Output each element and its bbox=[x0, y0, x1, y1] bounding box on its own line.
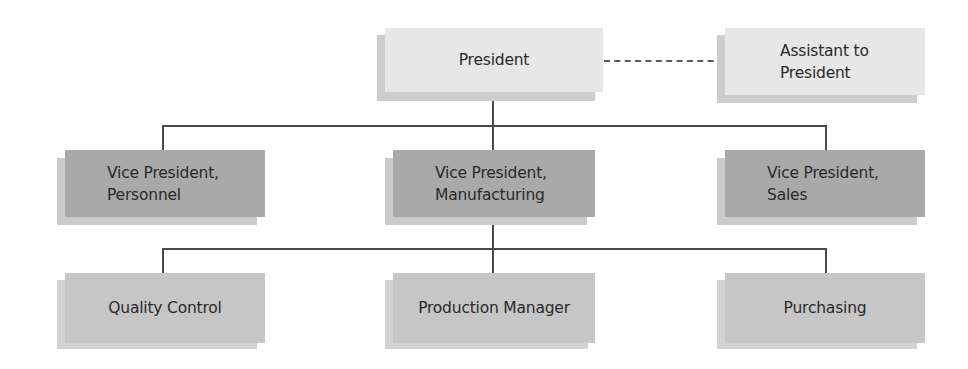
node-label: Quality Control bbox=[108, 297, 221, 319]
box-face: Purchasing bbox=[725, 273, 925, 343]
dashed-staff-connector bbox=[604, 60, 724, 62]
node-label: President bbox=[459, 49, 530, 71]
node-label: Production Manager bbox=[418, 297, 570, 319]
org-chart: President Assistant to President Vice Pr… bbox=[0, 0, 968, 369]
box-face: Vice President, Manufacturing bbox=[393, 150, 595, 217]
box-face: President bbox=[385, 28, 603, 92]
connector-vp-manufacturing bbox=[492, 125, 494, 150]
connector-purchasing bbox=[825, 248, 827, 273]
connector-level2-horizontal bbox=[162, 125, 827, 127]
connector-vp-sales bbox=[825, 125, 827, 150]
box-face: Vice President, Personnel bbox=[65, 150, 265, 217]
node-label: Vice President, Personnel bbox=[107, 162, 219, 206]
node-label: Assistant to President bbox=[780, 40, 869, 84]
connector-quality-control bbox=[162, 248, 164, 273]
box-face: Quality Control bbox=[65, 273, 265, 343]
node-label: Vice President, Sales bbox=[767, 162, 879, 206]
connector-production-manager bbox=[492, 248, 494, 273]
box-face: Assistant to President bbox=[725, 28, 925, 95]
connector-level3-horizontal bbox=[162, 248, 827, 250]
node-label: Vice President, Manufacturing bbox=[435, 162, 547, 206]
node-label: Purchasing bbox=[784, 297, 867, 319]
connector-vp-personnel bbox=[162, 125, 164, 150]
box-face: Vice President, Sales bbox=[725, 150, 925, 217]
box-face: Production Manager bbox=[393, 273, 595, 343]
